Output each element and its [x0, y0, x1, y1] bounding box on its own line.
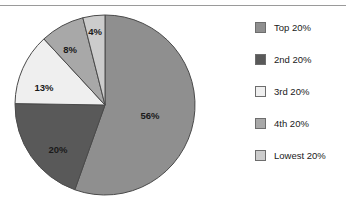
legend-swatch-icon — [255, 54, 266, 65]
pie-slice-value-label: 4% — [88, 26, 102, 37]
pie-slice-value-label: 13% — [34, 82, 54, 93]
pie-slice-value-label: 20% — [48, 144, 68, 155]
top-divider-rule — [0, 5, 346, 6]
pie-slice-value-label: 8% — [63, 44, 77, 55]
legend-item[interactable]: Top 20% — [255, 20, 346, 34]
pie-chart-svg: 56%20%13%8%4% — [0, 8, 230, 204]
legend-item-label: Lowest 20% — [274, 150, 326, 161]
legend-swatch-icon — [255, 150, 266, 161]
legend-swatch-icon — [255, 86, 266, 97]
legend-item-label: Top 20% — [274, 22, 311, 33]
legend-swatch-icon — [255, 118, 266, 129]
chart-legend: Top 20%2nd 20%3rd 20%4th 20%Lowest 20% — [255, 20, 346, 188]
pie-slice-value-label: 56% — [140, 110, 160, 121]
legend-item[interactable]: 4th 20% — [255, 116, 346, 130]
legend-item-label: 2nd 20% — [274, 54, 312, 65]
legend-item-label: 3rd 20% — [274, 86, 309, 97]
chart-area: 56%20%13%8%4% — [0, 8, 230, 204]
legend-item-label: 4th 20% — [274, 118, 309, 129]
legend-item[interactable]: 2nd 20% — [255, 52, 346, 66]
pie-chart-figure: 56%20%13%8%4% Top 20%2nd 20%3rd 20%4th 2… — [0, 0, 346, 204]
legend-item[interactable]: Lowest 20% — [255, 148, 346, 162]
pie-slice-group — [15, 15, 195, 195]
legend-item[interactable]: 3rd 20% — [255, 84, 346, 98]
legend-swatch-icon — [255, 22, 266, 33]
